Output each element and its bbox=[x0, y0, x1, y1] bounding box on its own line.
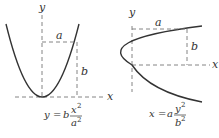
x-axis-label: x bbox=[107, 90, 114, 103]
equation-denominator-exponent: 2 bbox=[181, 115, 185, 123]
y-axis-label: y bbox=[128, 6, 136, 19]
equation-coefficient: a bbox=[167, 108, 173, 119]
parabola-curve bbox=[121, 26, 202, 102]
parabola-diagram: y x a b y = b x 2 a 2 y x a b x = bbox=[0, 0, 219, 138]
equation-denominator-exponent: 2 bbox=[77, 116, 81, 124]
equation-horizontal-parabola: x = a y 2 b 2 bbox=[149, 101, 186, 128]
equation-equals: = bbox=[158, 108, 166, 119]
dimension-b-label: b bbox=[81, 65, 88, 78]
equation-numerator-exponent: 2 bbox=[77, 102, 81, 110]
equation-lhs: x bbox=[149, 108, 155, 119]
x-axis-label: x bbox=[212, 58, 219, 71]
equation-coefficient: b bbox=[63, 109, 69, 120]
parabola-curve bbox=[6, 24, 79, 97]
dimension-b-label: b bbox=[191, 40, 198, 53]
equation-numerator-exponent: 2 bbox=[181, 101, 185, 109]
figure-vertical-parabola: y x a b y = b x 2 a 2 bbox=[6, 1, 114, 128]
dimension-a-label: a bbox=[155, 16, 162, 29]
equation-numerator: y bbox=[174, 103, 181, 114]
equation-equals: = bbox=[53, 109, 61, 120]
dimension-a-label: a bbox=[56, 29, 63, 42]
y-axis-label: y bbox=[38, 1, 46, 14]
equation-lhs: y bbox=[43, 109, 50, 120]
figure-horizontal-parabola: y x a b x = a y 2 b 2 bbox=[121, 6, 219, 128]
equation-vertical-parabola: y = b x 2 a 2 bbox=[43, 102, 82, 128]
